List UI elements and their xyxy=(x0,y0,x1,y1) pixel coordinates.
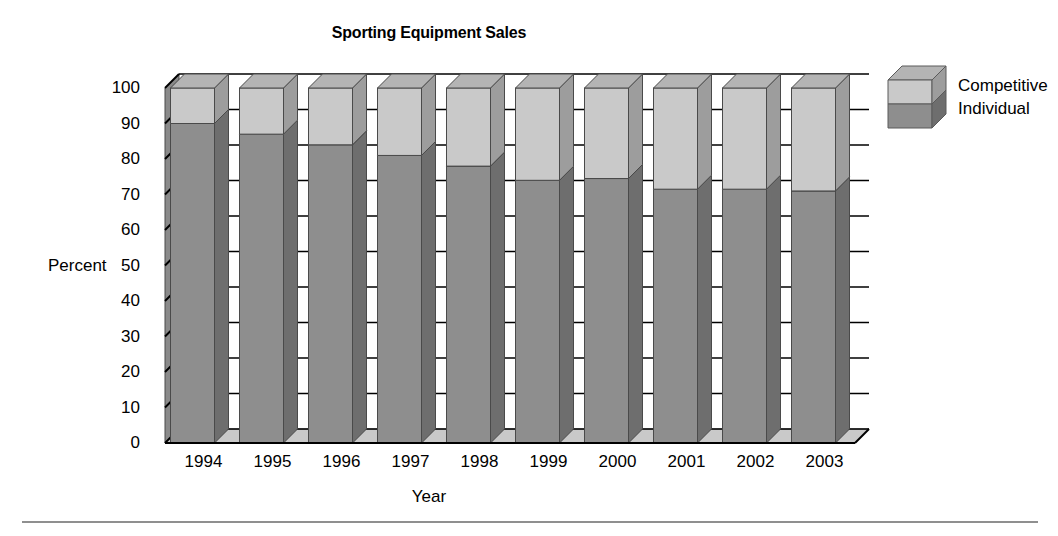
bar-segment-competitive-front xyxy=(309,88,353,145)
bar-segment-competitive-front xyxy=(585,88,629,179)
chart-bar-1999 xyxy=(516,74,574,443)
y-tick-10: 10 xyxy=(96,399,140,416)
bar-segment-competitive-front xyxy=(378,88,422,155)
x-tick-1995: 1995 xyxy=(238,452,308,472)
y-tick-60: 60 xyxy=(96,221,140,238)
bar-segment-individual-front xyxy=(378,155,422,443)
x-tick-1998: 1998 xyxy=(445,452,515,472)
bar-segment-individual-front xyxy=(240,134,284,443)
bar-segment-individual-front xyxy=(447,166,491,443)
chart-bar-1998 xyxy=(447,74,505,443)
bar-segment-individual-side xyxy=(491,152,505,443)
y-tick-90: 90 xyxy=(96,115,140,132)
bar-segment-individual-side xyxy=(215,110,229,444)
chart-bars xyxy=(171,74,850,443)
x-tick-2002: 2002 xyxy=(721,452,791,472)
chart-bar-1997 xyxy=(378,74,436,443)
bar-segment-individual-side xyxy=(629,165,643,443)
legend-entry-individual: Individual xyxy=(958,97,1048,120)
y-tick-80: 80 xyxy=(96,150,140,167)
y-tick-70: 70 xyxy=(96,186,140,203)
bar-segment-competitive-side xyxy=(698,74,712,189)
bar-segment-competitive-side xyxy=(836,74,850,191)
bar-segment-competitive-side xyxy=(560,74,574,180)
y-tick-0: 0 xyxy=(96,434,140,451)
bar-segment-competitive-side xyxy=(767,74,781,189)
y-tick-40: 40 xyxy=(96,292,140,309)
x-tick-2000: 2000 xyxy=(583,452,653,472)
bar-segment-individual-front xyxy=(654,189,698,443)
x-tick-1994: 1994 xyxy=(169,452,239,472)
bar-segment-competitive-front xyxy=(723,88,767,189)
chart-legend: Competitive Individual xyxy=(886,62,1056,134)
x-tick-1996: 1996 xyxy=(307,452,377,472)
bar-segment-competitive-front xyxy=(171,88,215,124)
bar-segment-individual-front xyxy=(723,189,767,443)
chart-bar-1995 xyxy=(240,74,298,443)
bar-segment-competitive-front xyxy=(516,88,560,180)
bar-segment-individual-front xyxy=(171,124,215,444)
bar-segment-individual-front xyxy=(792,191,836,443)
bar-segment-competitive-front xyxy=(447,88,491,166)
bar-segment-individual-front xyxy=(516,180,560,443)
chart-bar-2000 xyxy=(585,74,643,443)
x-tick-1999: 1999 xyxy=(514,452,584,472)
chart-bar-1994 xyxy=(171,74,229,443)
bar-segment-competitive-front xyxy=(240,88,284,134)
bar-segment-competitive-side xyxy=(629,74,643,179)
legend-entries: Competitive Individual xyxy=(958,74,1048,120)
y-axis-title: Percent xyxy=(48,256,107,276)
bar-segment-competitive-front xyxy=(792,88,836,191)
y-tick-30: 30 xyxy=(96,328,140,345)
bar-segment-individual-front xyxy=(309,145,353,443)
x-axis-title: Year xyxy=(0,487,1058,507)
bar-segment-individual-side xyxy=(353,131,367,443)
chart-bar-2003 xyxy=(792,74,850,443)
bar-segment-individual-front xyxy=(585,179,629,443)
chart-bar-2002 xyxy=(723,74,781,443)
chart-bar-1996 xyxy=(309,74,367,443)
legend-entry-competitive: Competitive xyxy=(958,74,1048,97)
y-tick-100: 100 xyxy=(96,79,140,96)
chart-bar-2001 xyxy=(654,74,712,443)
bar-segment-individual-side xyxy=(284,120,298,443)
bar-segment-individual-side xyxy=(422,141,436,443)
y-tick-20: 20 xyxy=(96,363,140,380)
legend-cube-icon xyxy=(886,64,948,130)
bar-segment-individual-side xyxy=(560,166,574,443)
footer-divider xyxy=(22,521,1038,523)
bar-segment-competitive-front xyxy=(654,88,698,189)
bar-segment-individual-side xyxy=(698,175,712,443)
x-tick-1997: 1997 xyxy=(376,452,446,472)
bar-segment-competitive-side xyxy=(491,74,505,166)
x-tick-2001: 2001 xyxy=(652,452,722,472)
bar-segment-individual-side xyxy=(836,177,850,443)
bar-segment-individual-side xyxy=(767,175,781,443)
x-tick-2003: 2003 xyxy=(790,452,860,472)
